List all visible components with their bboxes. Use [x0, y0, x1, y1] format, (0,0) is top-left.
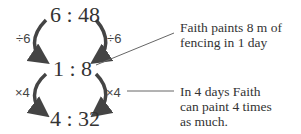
op-bottom-right: ×4 [106, 86, 121, 99]
ratio-top: 6 : 48 [50, 4, 100, 26]
note-second: In 4 days Faith can paint 4 times as muc… [180, 84, 272, 129]
note-first: Faith paints 8 m of fencing in 1 day [180, 20, 282, 50]
note-second-line1: In 4 days Faith [180, 84, 272, 99]
op-bottom-left: ×4 [15, 86, 30, 99]
arrow-bottom-left [35, 74, 47, 113]
ratio-bottom: 4 : 32 [50, 108, 100, 130]
note-first-line1: Faith paints 8 m of [180, 20, 282, 35]
note-first-line2: fencing in 1 day [180, 35, 282, 50]
arrow-top-left [35, 20, 47, 60]
op-top-left: ÷6 [16, 32, 30, 45]
op-top-right: ÷6 [107, 32, 121, 45]
ratio-middle: 1 : 8 [53, 58, 92, 80]
note-second-line3: as much. [180, 114, 272, 129]
note-second-line2: can paint 4 times [180, 99, 272, 114]
